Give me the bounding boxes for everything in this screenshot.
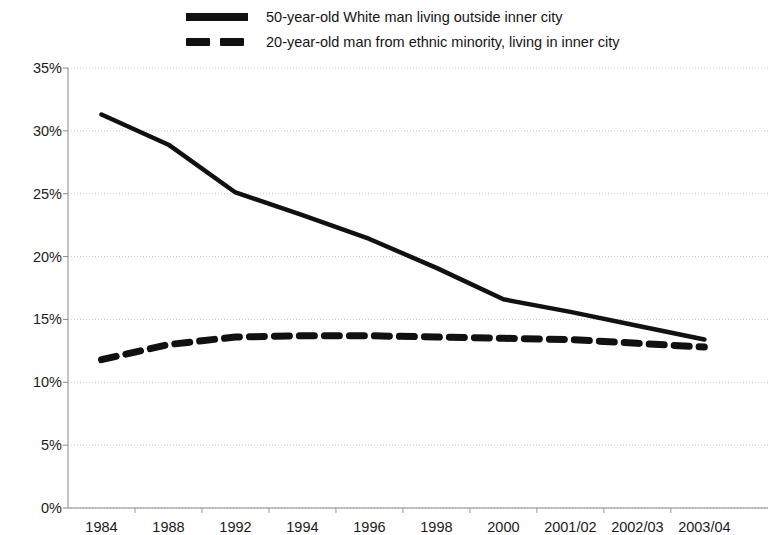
legend-swatch-dashed-line-icon [186,38,248,46]
legend-item-dashed: 20-year-old man from ethnic minority, li… [186,29,746,54]
x-axis-labels: 19841988199219941996199820002001/022002/… [0,56,774,530]
chart-legend: 50-year-old White man living outside inn… [186,4,746,54]
x-axis-tick-label: 2000 [487,520,519,534]
x-axis-tick-label: 1998 [420,520,452,534]
legend-swatch-solid-line-icon [186,13,248,21]
x-axis-tick-label: 2003/04 [678,520,730,534]
legend-label-solid: 50-year-old White man living outside inn… [266,9,563,25]
x-axis-tick-label: 1994 [286,520,318,534]
x-axis-tick-label: 2001/02 [544,520,596,534]
x-axis-tick-label: 1996 [353,520,385,534]
x-axis-tick-label: 1992 [219,520,251,534]
x-axis-tick-label: 2002/03 [611,520,663,534]
x-axis-tick-label: 1988 [152,520,184,534]
line-chart: 0%5%10%15%20%25%30%35% 19841988199219941… [0,56,774,530]
x-axis-tick-label: 1984 [85,520,117,534]
legend-label-dashed: 20-year-old man from ethnic minority, li… [266,34,620,50]
legend-item-solid: 50-year-old White man living outside inn… [186,4,746,29]
